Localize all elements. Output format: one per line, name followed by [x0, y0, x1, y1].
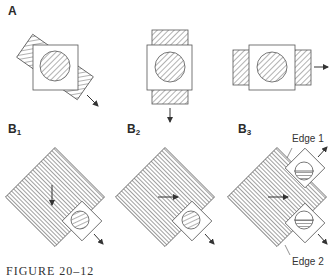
hatched-band-right [294, 50, 311, 85]
arrow-up-right-icon [318, 147, 327, 157]
figure-caption: FIGURE 20–12 [6, 264, 94, 279]
panel-a3 [233, 45, 328, 90]
panel-b3-label: B3 [238, 122, 251, 137]
panel-b1-label: B1 [8, 122, 21, 137]
panel-b2-label: B2 [127, 122, 140, 137]
arrow-down-right-icon [87, 95, 98, 106]
hatched-band-bottom [152, 89, 188, 104]
edge2-label: Edge 2 [292, 256, 324, 267]
panel-b2 [116, 148, 215, 247]
hatched-circle [40, 51, 70, 81]
hatched-band-left [233, 50, 250, 85]
hatched-circle [257, 52, 287, 82]
hatched-circle [155, 52, 185, 82]
panel-b1-label-main: B [8, 122, 17, 136]
edge2-leader-line [285, 245, 290, 255]
panel-a2 [147, 30, 192, 122]
panel-b3 [228, 147, 327, 255]
arrow-down-right-icon [318, 234, 327, 244]
panel-b1-label-sub: 1 [17, 128, 21, 137]
arrow-down-right-icon [94, 234, 103, 244]
edge1-label: Edge 1 [292, 133, 324, 144]
panel-a-label: A [8, 4, 17, 18]
panel-b1 [6, 148, 105, 247]
panel-b2-label-main: B [127, 122, 136, 136]
panel-a1 [17, 34, 98, 106]
panel-b3-label-sub: 3 [247, 128, 251, 137]
arrow-down-right-icon [205, 234, 214, 244]
panel-b3-label-main: B [238, 122, 247, 136]
edge1-leader-line [287, 148, 292, 158]
hatched-band-top [152, 30, 188, 46]
panel-b2-label-sub: 2 [136, 128, 140, 137]
